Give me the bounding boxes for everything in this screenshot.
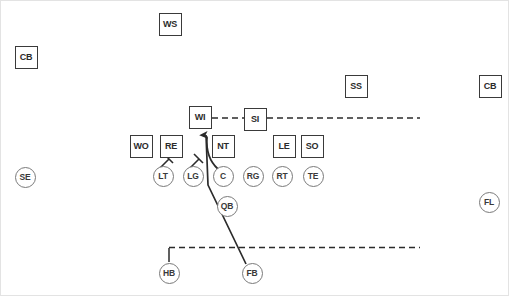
player-nose-tackle[interactable]: NT xyxy=(212,135,235,158)
player-strong-safety[interactable]: SS xyxy=(345,75,368,98)
player-label: RG xyxy=(247,171,259,181)
player-fullback[interactable]: FB xyxy=(242,263,263,284)
player-flanker[interactable]: FL xyxy=(479,192,500,213)
player-label: LE xyxy=(278,141,289,151)
routes-layer xyxy=(1,1,509,296)
player-label: RT xyxy=(277,171,288,181)
player-left-guard[interactable]: LG xyxy=(183,166,204,187)
player-weak-outside-linebacker[interactable]: WO xyxy=(130,135,153,158)
player-right-guard[interactable]: RG xyxy=(243,166,264,187)
player-tight-end[interactable]: TE xyxy=(303,166,324,187)
player-strong-outside-linebacker[interactable]: SO xyxy=(301,135,324,158)
player-weak-safety[interactable]: WS xyxy=(159,13,182,36)
player-label: NT xyxy=(217,141,229,151)
player-label: CB xyxy=(20,52,33,62)
player-label: LT xyxy=(158,171,167,181)
player-label: FB xyxy=(247,268,258,278)
player-right-tackle[interactable]: RT xyxy=(272,166,293,187)
player-sam-linebacker[interactable]: SI xyxy=(244,108,267,131)
player-label: CB xyxy=(484,81,497,91)
player-label: SO xyxy=(306,141,319,151)
player-will-linebacker[interactable]: WI xyxy=(189,106,212,129)
player-label: FL xyxy=(484,197,494,207)
player-label: HB xyxy=(163,268,175,278)
player-label: LG xyxy=(187,171,198,181)
play-diagram: WSCBSSCBWISIWORENTLESOSELTLGCRGRTTEFLQBH… xyxy=(0,0,509,296)
player-cornerback-left[interactable]: CB xyxy=(15,46,38,69)
player-label: WS xyxy=(163,19,177,29)
player-label: WO xyxy=(133,141,148,151)
player-center[interactable]: C xyxy=(213,166,234,187)
player-quarterback[interactable]: QB xyxy=(217,196,238,217)
player-label: SE xyxy=(20,172,31,182)
player-label: QB xyxy=(221,201,233,211)
player-cornerback-right[interactable]: CB xyxy=(479,75,502,98)
player-label: C xyxy=(220,171,226,181)
player-halfback[interactable]: HB xyxy=(159,263,180,284)
player-label: SS xyxy=(350,81,362,91)
player-right-end[interactable]: RE xyxy=(160,135,183,158)
player-left-end[interactable]: LE xyxy=(273,135,296,158)
player-left-tackle[interactable]: LT xyxy=(153,166,174,187)
player-label: TE xyxy=(308,171,318,181)
player-split-end[interactable]: SE xyxy=(15,167,36,188)
player-label: SI xyxy=(251,114,259,124)
player-label: WI xyxy=(195,112,206,122)
player-label: RE xyxy=(165,141,177,151)
